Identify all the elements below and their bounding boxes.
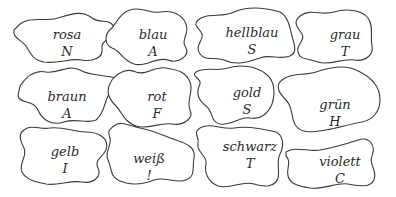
color-puzzle: rosa N blau A hellblau S grau T braun A … — [0, 0, 396, 197]
color-word: weiß — [124, 150, 174, 167]
color-word: rosa — [42, 26, 92, 43]
color-word: grün — [310, 96, 360, 113]
piece-gelb: gelb I — [40, 143, 90, 177]
color-word: gelb — [40, 143, 90, 160]
piece-letter: N — [42, 43, 92, 60]
color-word: rot — [132, 88, 182, 105]
piece-hellblau: hellblau S — [220, 24, 284, 58]
color-word: violett — [310, 153, 370, 170]
piece-letter: T — [320, 43, 370, 60]
piece-letter: H — [310, 113, 360, 130]
piece-weiss: weiß ! — [124, 150, 174, 184]
piece-letter: A — [42, 105, 92, 122]
piece-gold: gold S — [222, 84, 272, 118]
piece-letter: S — [222, 101, 272, 118]
piece-letter: A — [128, 43, 178, 60]
piece-blau: blau A — [128, 26, 178, 60]
color-word: schwarz — [220, 138, 280, 155]
piece-violett: violett C — [310, 153, 370, 187]
piece-rot: rot F — [132, 88, 182, 122]
piece-letter: C — [310, 170, 370, 187]
piece-letter: S — [220, 41, 284, 58]
piece-letter: F — [132, 105, 182, 122]
piece-gruen: grün H — [310, 96, 360, 130]
color-word: braun — [42, 88, 92, 105]
color-word: hellblau — [220, 24, 284, 41]
piece-braun: braun A — [42, 88, 92, 122]
color-word: blau — [128, 26, 178, 43]
piece-grau: grau T — [320, 26, 370, 60]
color-word: grau — [320, 26, 370, 43]
piece-schwarz: schwarz T — [220, 138, 280, 172]
piece-rosa: rosa N — [42, 26, 92, 60]
piece-letter: ! — [124, 167, 174, 184]
color-word: gold — [222, 84, 272, 101]
piece-letter: I — [40, 160, 90, 177]
piece-letter: T — [220, 155, 280, 172]
